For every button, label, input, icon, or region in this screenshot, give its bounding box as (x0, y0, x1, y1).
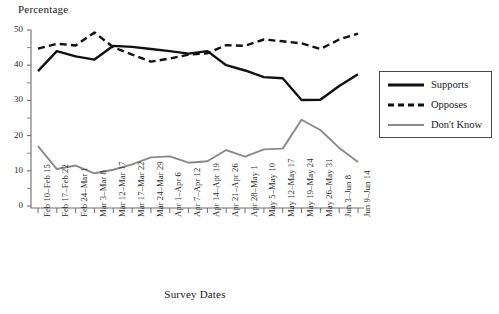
legend-swatch-dashed-black-icon (388, 100, 424, 110)
y-tick-label: 20 (5, 130, 23, 140)
legend-swatch-solid-black-icon (388, 80, 424, 90)
line-chart-plot (0, 0, 499, 314)
x-tick-label: Mar 12–Mar 17 (117, 161, 127, 217)
chart-legend: Supports Opposes Don't Know (379, 71, 492, 138)
x-tick-label: Jun 3–Jun 8 (343, 175, 353, 217)
x-tick-label: Apr 14–Apr 19 (211, 163, 221, 217)
legend-item-opposes: Opposes (380, 95, 493, 115)
legend-swatch-solid-gray-icon (388, 120, 424, 130)
legend-item-supports: Supports (380, 75, 493, 95)
x-tick-label: May 12–May 17 (286, 158, 296, 217)
legend-label-supports: Supports (431, 80, 468, 91)
y-tick-label: 30 (5, 94, 23, 104)
x-tick-label: Feb 10–Feb 15 (42, 164, 52, 217)
x-tick-label: Apr 28–May 1 (249, 165, 259, 217)
x-tick-label: Jun 9–Jun 14 (362, 170, 372, 217)
chart-series (38, 32, 358, 173)
y-axis-title: Percentage (18, 3, 68, 15)
x-tick-label: May 19–May 24 (305, 158, 315, 217)
y-tick-label: 10 (5, 165, 23, 175)
chart-figure: Percentage 01020304050 Feb 10–Feb 15Feb … (0, 0, 499, 314)
x-tick-label: Mar 3–Mar 8 (98, 170, 108, 217)
x-tick-label: Feb 17–Feb 22 (60, 164, 70, 217)
x-tick-label: Mar 17–Mar 22 (136, 161, 146, 217)
x-axis-title: Survey Dates (0, 288, 390, 300)
legend-item-dont-know: Don't Know (380, 115, 493, 135)
x-tick-label: May 26–May 31 (324, 158, 334, 217)
y-tick-label: 50 (5, 24, 23, 34)
x-tick-label: Apr 1–Apr 6 (173, 172, 183, 217)
x-tick-label: Apr 21–Apr 26 (230, 163, 240, 217)
y-tick-label: 40 (5, 59, 23, 69)
y-tick-label: 0 (5, 200, 23, 210)
legend-label-opposes: Opposes (431, 100, 467, 111)
x-tick-label: Feb 24–Mar 1 (79, 167, 89, 217)
x-tick-label: May 5–May 10 (267, 163, 277, 217)
legend-label-dont-know: Don't Know (431, 120, 482, 131)
x-tick-label: Mar 24–Mar 29 (155, 161, 165, 217)
x-tick-label: Apr 7–Apr 12 (192, 168, 202, 217)
